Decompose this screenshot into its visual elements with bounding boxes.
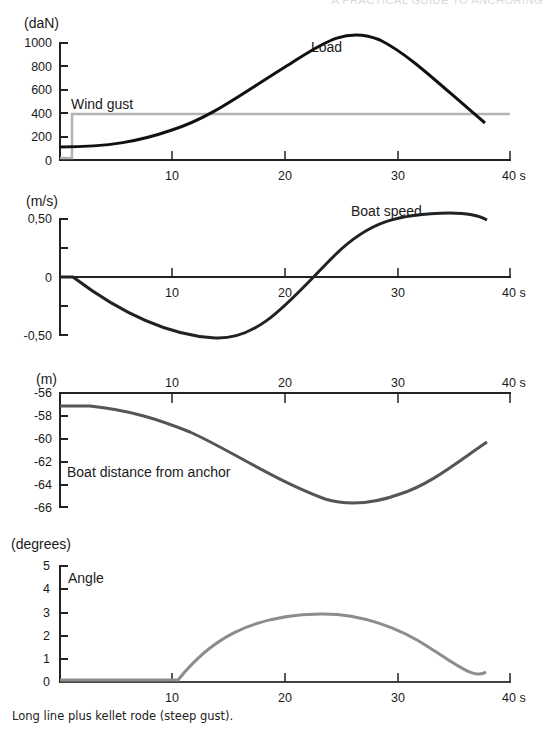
- x-tick: 40 s: [502, 691, 526, 705]
- y-tick: 0: [43, 675, 50, 689]
- x-axis: 10 20 30 40 s: [60, 268, 526, 300]
- wind-gust-label: Wind gust: [71, 96, 133, 112]
- x-tick: 40 s: [502, 286, 526, 300]
- y-tick: -62: [34, 455, 52, 469]
- figure-caption: Long line plus kellet rode (steep gust).: [12, 709, 233, 723]
- x-tick: 40 s: [502, 169, 526, 183]
- y-tick: -60: [34, 432, 52, 446]
- angle-chart: (degrees) 5 4 3 2 1 0 10 20 30 40 s: [11, 536, 526, 705]
- x-tick: 10: [165, 286, 179, 300]
- y-tick: -0,50: [24, 329, 53, 343]
- x-tick: 20: [278, 376, 292, 390]
- y-tick: -58: [34, 409, 52, 423]
- angle-label: Angle: [68, 570, 104, 586]
- distance-line: [60, 406, 487, 503]
- boat-speed-line: [60, 213, 487, 338]
- y-axis: 5 4 3 2 1 0: [43, 559, 68, 689]
- distance-chart: (m) 10 20 30 40 s -56 -58 -60 -62 -64: [34, 371, 526, 515]
- x-tick: 10: [165, 691, 179, 705]
- angle-line: [60, 614, 486, 680]
- x-tick: 30: [391, 169, 405, 183]
- y-unit-label: (m/s): [26, 193, 58, 209]
- y-tick: 0: [45, 154, 52, 168]
- y-tick: 1000: [24, 36, 52, 50]
- boat-speed-label: Boat speed: [351, 203, 422, 219]
- y-tick: 1: [43, 652, 50, 666]
- x-axis: 10 20 30 40 s: [60, 151, 526, 183]
- y-tick: 0: [45, 271, 52, 285]
- x-tick: 40 s: [502, 376, 526, 390]
- y-unit-label: (daN): [24, 15, 59, 31]
- y-tick: 800: [31, 60, 52, 74]
- figure: (daN) 1000 800 600 400 200 0 10 20 30: [0, 0, 551, 731]
- y-tick: 3: [43, 606, 50, 620]
- y-tick: 400: [31, 107, 52, 121]
- x-tick: 30: [391, 286, 405, 300]
- x-tick: 10: [165, 376, 179, 390]
- boat-speed-chart: (m/s) 0,50 0 -0,50 10 20 30 40 s Boat sp…: [24, 193, 526, 343]
- x-tick: 10: [165, 169, 179, 183]
- load-line: [60, 35, 485, 147]
- y-tick: 5: [43, 559, 50, 573]
- x-tick: 30: [391, 376, 405, 390]
- distance-label: Boat distance from anchor: [67, 464, 231, 480]
- y-unit-label: (degrees): [11, 536, 71, 552]
- y-tick: 0,50: [28, 212, 52, 226]
- x-tick: 20: [278, 286, 292, 300]
- y-tick: -66: [34, 501, 52, 515]
- x-tick: 20: [278, 169, 292, 183]
- y-unit-label: (m): [36, 371, 57, 387]
- x-tick: 20: [278, 691, 292, 705]
- y-tick: 2: [43, 629, 50, 643]
- x-axis: 10 20 30 40 s: [60, 673, 526, 705]
- y-tick: 200: [31, 130, 52, 144]
- y-tick: -56: [34, 386, 52, 400]
- y-tick: -64: [34, 478, 52, 492]
- y-tick: 4: [43, 582, 50, 596]
- y-tick: 600: [31, 83, 52, 97]
- x-axis: 10 20 30 40 s: [60, 376, 526, 403]
- load-label: Load: [311, 39, 342, 55]
- load-chart: (daN) 1000 800 600 400 200 0 10 20 30: [24, 15, 526, 183]
- x-tick: 30: [391, 691, 405, 705]
